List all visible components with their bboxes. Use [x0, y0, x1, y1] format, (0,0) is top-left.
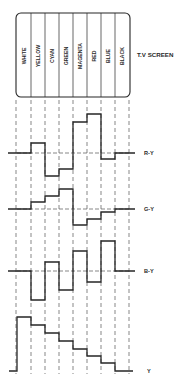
signal-labels: R-YG-YB-YY	[144, 150, 154, 374]
bar-label-black: BLACK	[119, 47, 125, 65]
signal-label-g-y: G-Y	[144, 206, 154, 212]
bar-label-cyan: CYAN	[49, 49, 55, 63]
signal-label-r-y: R-Y	[144, 150, 154, 156]
waveforms	[8, 114, 135, 371]
waveform-b-y	[8, 241, 135, 300]
bar-label-red: RED	[91, 50, 97, 61]
bar-label-white: WHITE	[21, 47, 27, 64]
waveform-y	[9, 317, 133, 371]
tv-screen-label: T.V SCREEN	[137, 51, 174, 58]
bar-label-magenta: MAGENTA	[77, 43, 83, 69]
signal-label-y: Y	[147, 368, 151, 374]
waveform-g-y	[8, 189, 135, 225]
signal-label-b-y: B-Y	[144, 268, 154, 274]
bar-label-green: GREEN	[63, 47, 69, 66]
waveform-r-y	[8, 114, 135, 176]
bar-label-yellow: YELLOW	[35, 45, 41, 67]
color-bar-diagram: WHITEYELLOWCYANGREENMAGENTAREDBLUEBLACK …	[0, 0, 179, 384]
tv-screen-box: WHITEYELLOWCYANGREENMAGENTAREDBLUEBLACK	[16, 13, 130, 97]
bar-label-blue: BLUE	[105, 48, 111, 63]
